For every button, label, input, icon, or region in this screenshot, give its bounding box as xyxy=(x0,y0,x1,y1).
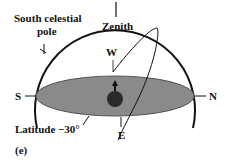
panel-label: (e) xyxy=(15,145,27,156)
south-celestial-pole-label-2: pole xyxy=(37,26,57,37)
zenith-label: Zenith xyxy=(102,21,133,32)
latitude-pointer xyxy=(83,116,89,125)
north-label: N xyxy=(209,91,217,102)
south-label: S xyxy=(15,91,21,102)
pole-marker xyxy=(40,49,46,53)
south-celestial-pole-label: South celestial xyxy=(14,13,82,24)
east-label: E xyxy=(118,130,125,141)
latitude-label: Latitude −30° xyxy=(15,124,80,135)
observer-icon xyxy=(107,91,123,107)
west-label: W xyxy=(106,47,117,58)
